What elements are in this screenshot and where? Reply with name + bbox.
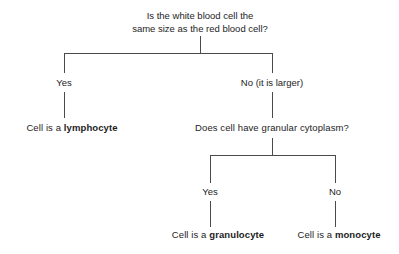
connector-bottom-split-bar [210,155,336,156]
edge-label-yes-granular: Yes [202,186,218,197]
outcome-granulocyte: Cell is a granulocyte [172,229,264,241]
connector-left-branch-stem [64,92,65,118]
outcome-lymphocyte-prefix: Cell is a [26,122,63,133]
outcome-monocyte-prefix: Cell is a [297,229,334,240]
outcome-lymphocyte-term: lymphocyte [64,122,118,133]
root-question-line-1: Is the white blood cell the [132,10,268,23]
connector-bottom-left-drop [210,155,211,183]
connector-top-left-drop [64,53,65,73]
connector-sub-question-stem [272,138,273,155]
edge-label-yes-size: Yes [56,77,72,88]
connector-bottom-right-drop [335,155,336,183]
connector-top-split-bar [64,53,273,54]
edge-label-no-granular: No [329,186,341,197]
sub-question: Does cell have granular cytoplasm? [195,122,349,134]
connector-root-stem [200,36,201,53]
connector-top-right-drop [272,53,273,73]
root-question-line-2: same size as the red blood cell? [132,23,268,36]
root-question: Is the white blood cell the same size as… [132,10,268,35]
connector-right-branch-stem [272,92,273,118]
outcome-granulocyte-term: granulocyte [209,229,264,240]
outcome-monocyte: Cell is a monocyte [297,229,380,241]
outcome-monocyte-term: monocyte [335,229,381,240]
edge-label-no-larger: No (it is larger) [241,77,303,88]
outcome-granulocyte-prefix: Cell is a [172,229,209,240]
decision-tree-diagram: Is the white blood cell the same size as… [0,0,399,254]
connector-monocyte-stem [335,201,336,227]
outcome-lymphocyte: Cell is a lymphocyte [26,122,117,134]
connector-granulocyte-stem [210,201,211,227]
